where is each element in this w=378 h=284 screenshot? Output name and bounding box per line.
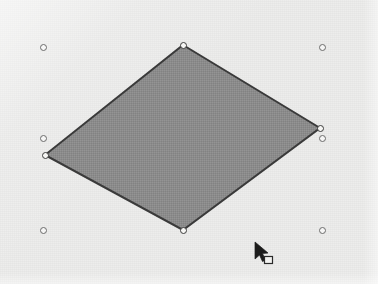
handle-middle-left[interactable] bbox=[40, 135, 47, 142]
drawing-application bbox=[0, 0, 378, 284]
handle-bottom-left[interactable] bbox=[40, 227, 47, 234]
handle-bottom-right[interactable] bbox=[319, 227, 326, 234]
vertex-handle-left[interactable] bbox=[42, 152, 49, 159]
vertex-handle-bottom[interactable] bbox=[180, 227, 187, 234]
handle-top-right[interactable] bbox=[319, 44, 326, 51]
handle-middle-right[interactable] bbox=[319, 135, 326, 142]
vertex-handle-right[interactable] bbox=[317, 125, 324, 132]
vertex-handle-top[interactable] bbox=[180, 42, 187, 49]
selection-handle-layer bbox=[0, 0, 378, 284]
handle-top-left[interactable] bbox=[40, 44, 47, 51]
